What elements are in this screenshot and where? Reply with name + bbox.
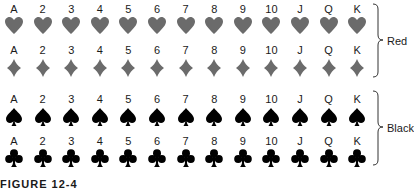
rank-label: J [288, 93, 312, 105]
rank-label: 6 [145, 93, 169, 105]
diamond-icon [176, 58, 196, 78]
heart-icon [261, 16, 281, 36]
rank-label: A [2, 93, 26, 105]
rank-label: 2 [31, 3, 55, 15]
group-label-black: Black [387, 122, 414, 134]
club-icon [347, 148, 367, 168]
rank-label: 5 [116, 3, 140, 15]
spade-icon [319, 107, 339, 127]
rank-label: 10 [259, 135, 283, 147]
rank-label: 5 [116, 44, 140, 56]
figure-caption: FIGURE 12-4 [0, 178, 78, 190]
rank-label: 3 [59, 93, 83, 105]
rank-label: 4 [88, 3, 112, 15]
heart-icon [147, 16, 167, 36]
diamond-icon [90, 58, 110, 78]
spade-icon [118, 107, 138, 127]
rank-label: J [288, 44, 312, 56]
rank-label: K [345, 135, 369, 147]
diamond-icon [261, 58, 281, 78]
rank-label: 2 [31, 135, 55, 147]
rank-label: 3 [59, 135, 83, 147]
club-icon [319, 148, 339, 168]
diamond-icon [61, 58, 81, 78]
rank-label: Q [317, 44, 341, 56]
spade-icon [233, 107, 253, 127]
rank-label: 4 [88, 93, 112, 105]
rank-label: 3 [59, 44, 83, 56]
diamond-icon [118, 58, 138, 78]
rank-label: 2 [31, 44, 55, 56]
heart-icon [319, 16, 339, 36]
heart-icon [4, 16, 24, 36]
brace-red-icon [372, 3, 386, 78]
rank-label: J [288, 3, 312, 15]
rank-label: 5 [116, 135, 140, 147]
rank-label: 9 [231, 44, 255, 56]
rank-label: 8 [202, 3, 226, 15]
heart-icon [347, 16, 367, 36]
club-icon [233, 148, 253, 168]
rank-label: 10 [259, 93, 283, 105]
rank-label: 7 [174, 135, 198, 147]
rank-label: 5 [116, 93, 140, 105]
rank-label: Q [317, 93, 341, 105]
heart-icon [118, 16, 138, 36]
rank-label: 8 [202, 44, 226, 56]
diamond-icon [204, 58, 224, 78]
diamond-icon [4, 58, 24, 78]
spade-icon [33, 107, 53, 127]
spade-icon [61, 107, 81, 127]
rank-label: Q [317, 3, 341, 15]
rank-label: 7 [174, 93, 198, 105]
club-icon [61, 148, 81, 168]
diamond-icon [147, 58, 167, 78]
club-icon [261, 148, 281, 168]
rank-label: 4 [88, 135, 112, 147]
rank-label: 3 [59, 3, 83, 15]
diamond-icon [33, 58, 53, 78]
club-icon [147, 148, 167, 168]
rank-label: 7 [174, 3, 198, 15]
group-label-red: Red [387, 35, 407, 47]
diamond-icon [290, 58, 310, 78]
rank-label: 6 [145, 135, 169, 147]
rank-label: K [345, 3, 369, 15]
spade-icon [347, 107, 367, 127]
diamond-icon [347, 58, 367, 78]
heart-icon [204, 16, 224, 36]
rank-label: 8 [202, 135, 226, 147]
rank-label: K [345, 93, 369, 105]
rank-label: 10 [259, 44, 283, 56]
spade-icon [147, 107, 167, 127]
spade-icon [176, 107, 196, 127]
club-icon [90, 148, 110, 168]
spade-icon [90, 107, 110, 127]
club-icon [204, 148, 224, 168]
rank-label: 4 [88, 44, 112, 56]
rank-label: J [288, 135, 312, 147]
rank-label: 6 [145, 44, 169, 56]
rank-label: Q [317, 135, 341, 147]
rank-label: 6 [145, 3, 169, 15]
heart-icon [290, 16, 310, 36]
rank-label: A [2, 3, 26, 15]
rank-label: 8 [202, 93, 226, 105]
rank-label: K [345, 44, 369, 56]
rank-label: 9 [231, 93, 255, 105]
spade-icon [290, 107, 310, 127]
heart-icon [233, 16, 253, 36]
heart-icon [61, 16, 81, 36]
heart-icon [176, 16, 196, 36]
rank-label: 9 [231, 135, 255, 147]
rank-label: 7 [174, 44, 198, 56]
club-icon [176, 148, 196, 168]
rank-label: 9 [231, 3, 255, 15]
club-icon [290, 148, 310, 168]
rank-label: 2 [31, 93, 55, 105]
rank-label: 10 [259, 3, 283, 15]
club-icon [118, 148, 138, 168]
spade-icon [261, 107, 281, 127]
diamond-icon [319, 58, 339, 78]
brace-black-icon [372, 90, 386, 166]
